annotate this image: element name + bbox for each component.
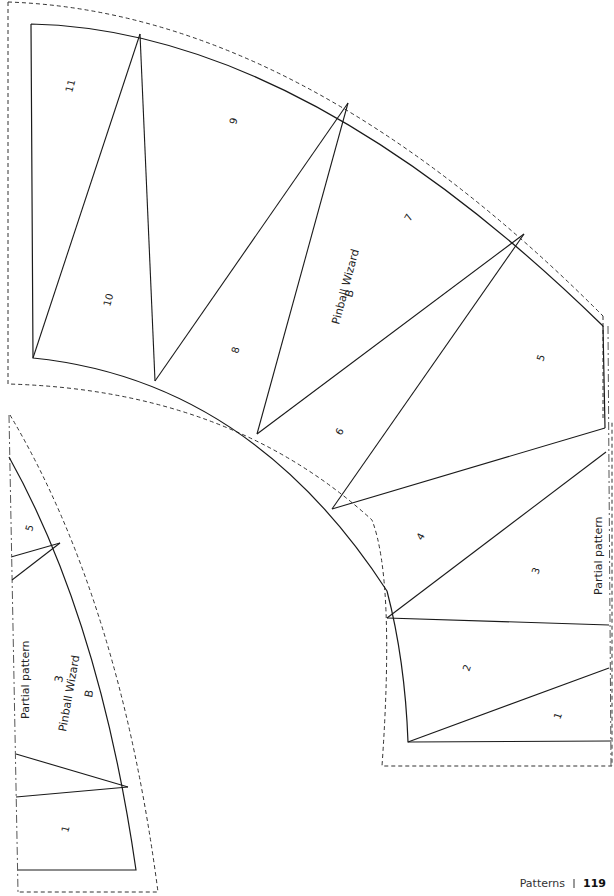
segment-label-7: 7: [402, 212, 415, 223]
pattern-title-large: Pinball Wizard: [329, 248, 362, 326]
small-piece-seam-allowance: [10, 415, 158, 892]
segment-label-5: 5: [535, 353, 548, 363]
large-piece-outline: [31, 24, 611, 742]
partial-pattern-note-large: Partial pattern: [592, 516, 605, 595]
section-label: Patterns: [520, 877, 565, 890]
partial-pattern-note-small: Partial pattern: [19, 640, 32, 719]
segment-label-4: 4: [414, 531, 427, 542]
footer-separator: [573, 879, 575, 888]
large-piece-segment-lines: [33, 34, 609, 742]
segment-label-3: 3: [530, 566, 543, 576]
segment-label-8: 8: [229, 346, 241, 355]
segment-label-11: 11: [63, 78, 77, 93]
large-piece-partial-edge: [608, 326, 611, 766]
page-number: 119: [583, 877, 606, 890]
small-piece-partial-edge: [9, 415, 18, 892]
segment-label-2: 2: [461, 663, 474, 673]
segment-label-6: 6: [333, 426, 346, 437]
small-segment-label-5: 5: [23, 524, 35, 533]
segment-label-1: 1: [552, 711, 565, 721]
pattern-drawing: 11 10 9 8 7 6 5 4 3 2 1 Pinball Wizard B…: [0, 0, 614, 896]
small-segment-label-1: 1: [59, 825, 71, 834]
pattern-letter-small: B: [82, 689, 96, 699]
page-footer: Patterns 119: [520, 877, 606, 890]
pattern-title-small: Pinball Wizard: [56, 654, 82, 732]
segment-label-10: 10: [101, 292, 115, 307]
segment-label-9: 9: [227, 117, 239, 126]
large-piece-seam-allowance: [8, 2, 612, 766]
